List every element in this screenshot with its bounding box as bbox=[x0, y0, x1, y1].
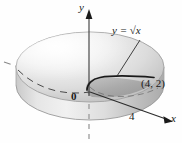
x-axis-tick-label-4: 4 bbox=[129, 111, 135, 122]
solid-of-revolution-figure: y = √x (4, 2) y x 4 0 bbox=[0, 0, 182, 143]
curve-equation-label: y = √x bbox=[112, 25, 141, 36]
point-coordinate-label: (4, 2) bbox=[141, 78, 165, 89]
y-axis-label: y bbox=[79, 2, 84, 13]
origin-label: 0 bbox=[71, 91, 77, 102]
figure-canvas bbox=[0, 0, 182, 143]
curve-equation-text: y = √x bbox=[112, 24, 141, 36]
x-axis-label: x bbox=[171, 113, 176, 124]
